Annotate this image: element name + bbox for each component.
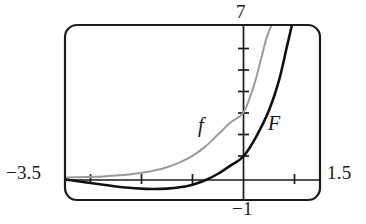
y-min-label: −1 <box>232 198 253 220</box>
curve-f-label: f <box>198 114 204 137</box>
curve-F-label: F <box>268 112 280 135</box>
y-max-label: 7 <box>236 1 246 23</box>
function-plot <box>0 0 366 224</box>
x-max-label: 1.5 <box>327 162 351 184</box>
graph-screenshot: −3.5 1.5 7 −1 f F <box>0 0 366 224</box>
x-min-label: −3.5 <box>6 162 41 184</box>
calculator-viewport-frame <box>65 25 320 200</box>
